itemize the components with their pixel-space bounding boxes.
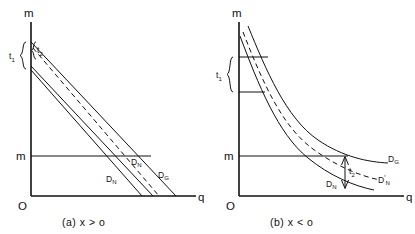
curve-dn-outer-a [31,66,153,196]
curve-label-dn-dashed-a: DN [131,157,141,168]
curve-label-dg-a: DG [158,170,169,181]
panel-a: m q O m t1 t2 DG DN DN (a) x > o [0,0,207,234]
x-axis-label-b: q [406,191,412,203]
label-t2-b: t2 [349,166,355,178]
caption-a: (a) x > o [62,216,105,228]
caption-b: (b) x < o [270,216,313,228]
curve-label-dn-a: DN [106,174,116,185]
y-axis-label-a: m [24,7,34,19]
y-axis-label-b: m [232,7,242,19]
panel-b: m q O m t1 t2 DG D′N DN (b) x < o [208,0,415,234]
brace-t1-b [227,57,233,92]
label-t2-a: t2 [37,45,43,57]
label-t1-b: t1 [216,70,222,82]
curve-label-dg-b: DG [388,154,399,165]
curve-label-dn-prime-b: D′N [378,174,390,186]
curve-dg-b [248,26,388,163]
brace-t1-a [20,42,26,69]
m-level-label-b: m [224,150,234,162]
curve-label-dn-b: DN [326,179,336,190]
curve-dn-dashed-a [33,48,159,196]
x-axis-label-a: q [198,191,204,203]
economics-figure: m q O m t1 t2 DG DN DN (a) x > o [0,0,415,234]
origin-label-b: O [226,200,235,212]
m-level-label-a: m [16,150,26,162]
curve-dn-b [240,36,374,190]
label-t1-a: t1 [9,51,15,63]
curve-dg-a [31,42,176,196]
origin-label-a: O [18,200,27,212]
curve-dn-inner-a [31,70,142,196]
curve-dn-prime-b [243,32,380,180]
